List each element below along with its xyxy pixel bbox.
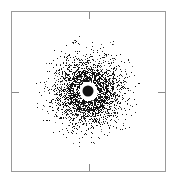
- left-center-tick: [12, 92, 19, 93]
- right-center-tick: [158, 92, 165, 93]
- plot-frame: [11, 11, 166, 172]
- scatter-density-cloud: [12, 12, 165, 171]
- top-center-tick: [89, 12, 90, 19]
- bottom-center-tick: [89, 164, 90, 171]
